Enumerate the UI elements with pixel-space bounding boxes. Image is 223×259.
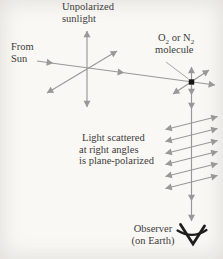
label-line: (on Earth) <box>127 235 179 247</box>
molecule-label: O2 or N2 molecule <box>155 32 194 55</box>
sun-ray <box>37 61 215 85</box>
label-line: sunlight <box>62 13 114 25</box>
molecule-group <box>166 62 209 94</box>
scattered-light-label: Light scattered at right angles is plane… <box>79 132 154 167</box>
sunlight-polarization-diagram: Unpolarized sunlight From Sun O2 or N2 m… <box>0 0 223 259</box>
molecule-dot-icon <box>189 79 194 84</box>
label-line: Observer <box>127 223 179 235</box>
label-line: at right angles <box>79 144 154 156</box>
observer-label: Observer (on Earth) <box>127 223 179 246</box>
molecule-pointer-line <box>166 62 189 79</box>
from-sun-label: From Sun <box>11 41 34 64</box>
unpolarized-starburst-icon <box>47 31 117 107</box>
label-line: O2 or N2 <box>158 32 194 44</box>
label-line: is plane-polarized <box>79 155 154 167</box>
label-line: Unpolarized <box>62 1 114 13</box>
observer-eye-icon <box>178 225 207 245</box>
label-line: Sun <box>11 53 34 65</box>
label-line: Light scattered <box>82 132 154 144</box>
unpolarized-sunlight-label: Unpolarized sunlight <box>62 1 114 24</box>
label-line: From <box>11 41 34 53</box>
label-line: molecule <box>155 44 194 56</box>
